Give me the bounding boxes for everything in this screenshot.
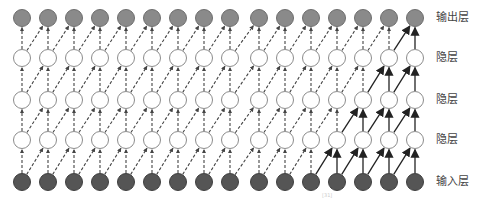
output-node (14, 10, 31, 27)
output-node (355, 10, 372, 27)
hidden2-node (170, 92, 187, 109)
hidden3-node (144, 50, 161, 67)
hidden1-node (144, 132, 161, 149)
dashed-edge (235, 66, 253, 93)
hidden2-node (118, 92, 135, 109)
output-node (329, 10, 346, 27)
input-node (381, 174, 398, 191)
dashed-edge (27, 148, 43, 174)
hidden2-node (222, 92, 239, 109)
dashed-edge (183, 66, 199, 92)
hidden1-node (14, 132, 31, 149)
hidden2-node (144, 92, 161, 109)
dashed-edge (53, 66, 69, 92)
hidden2-node (92, 92, 109, 109)
hidden2-node (40, 92, 57, 109)
hidden3-node (277, 50, 294, 67)
solid-edge (394, 66, 410, 92)
dashed-edge (53, 108, 69, 132)
dashed-edge (79, 148, 95, 174)
output-node (251, 10, 268, 27)
dashed-edge (131, 66, 147, 92)
label-output-layer: 输出层 (436, 11, 469, 25)
dashed-edge (183, 108, 199, 132)
dashed-edge (235, 26, 253, 51)
dashed-edge (157, 148, 173, 174)
dashed-edge (209, 108, 225, 132)
hidden1-node (196, 132, 213, 149)
dashed-edge (209, 66, 225, 92)
hidden2-node (251, 92, 268, 109)
hidden3-node (66, 50, 83, 67)
solid-edge (394, 148, 410, 174)
input-node (277, 174, 294, 191)
hidden3-node (407, 50, 424, 67)
dashed-edge (183, 148, 199, 174)
output-node (222, 10, 239, 27)
hidden3-node (222, 50, 239, 67)
dashed-edge (342, 26, 358, 50)
dashed-edge (290, 108, 306, 132)
dashed-edge (53, 26, 69, 50)
output-node (196, 10, 213, 27)
dashed-edge (27, 66, 43, 92)
solid-edge (394, 108, 410, 132)
hidden1-node (303, 132, 320, 149)
hidden2-node (66, 92, 83, 109)
hidden1-node (222, 132, 239, 149)
label-input-layer: 输入层 (436, 175, 469, 189)
hidden1-node (407, 132, 424, 149)
dashed-edge (290, 66, 306, 92)
solid-edge (342, 148, 358, 174)
hidden2-node (303, 92, 320, 109)
input-node (92, 174, 109, 191)
output-node (40, 10, 57, 27)
hidden3-node (170, 50, 187, 67)
dashed-edge (368, 26, 384, 50)
input-node (170, 174, 187, 191)
input-node (251, 174, 268, 191)
output-node (277, 10, 294, 27)
dashed-edge (209, 148, 225, 174)
label-hidden-layer-3: 隐层 (436, 51, 458, 65)
hidden3-node (329, 50, 346, 67)
dashed-edge (290, 26, 306, 50)
output-node (66, 10, 83, 27)
hidden1-node (277, 132, 294, 149)
dashed-edge (53, 148, 69, 174)
dashed-edge (290, 148, 306, 174)
dashed-edge (131, 108, 147, 132)
dashed-edge (79, 108, 95, 132)
dashed-edge (157, 26, 173, 50)
dashed-edge (157, 108, 173, 132)
input-node (407, 174, 424, 191)
output-node (118, 10, 135, 27)
dashed-edge (235, 108, 253, 133)
output-node (92, 10, 109, 27)
output-node (381, 10, 398, 27)
output-node (303, 10, 320, 27)
hidden3-node (92, 50, 109, 67)
hidden1-node (66, 132, 83, 149)
dashed-edge (157, 66, 173, 92)
dashed-edge (131, 26, 147, 50)
hidden3-node (40, 50, 57, 67)
hidden1-node (355, 132, 372, 149)
dashed-edge (105, 26, 121, 50)
dashed-edge (131, 148, 147, 174)
label-hidden-layer-1: 隐层 (436, 133, 458, 147)
dashed-edge (105, 108, 121, 132)
dashed-edge (264, 66, 280, 92)
hidden2-node (355, 92, 372, 109)
hidden1-node (92, 132, 109, 149)
hidden1-node (329, 132, 346, 149)
network-diagram (0, 0, 481, 202)
output-node (144, 10, 161, 27)
hidden2-node (277, 92, 294, 109)
hidden1-node (118, 132, 135, 149)
dashed-edge (183, 26, 199, 50)
hidden2-node (381, 92, 398, 109)
hidden3-node (381, 50, 398, 67)
hidden2-node (329, 92, 346, 109)
hidden3-node (118, 50, 135, 67)
